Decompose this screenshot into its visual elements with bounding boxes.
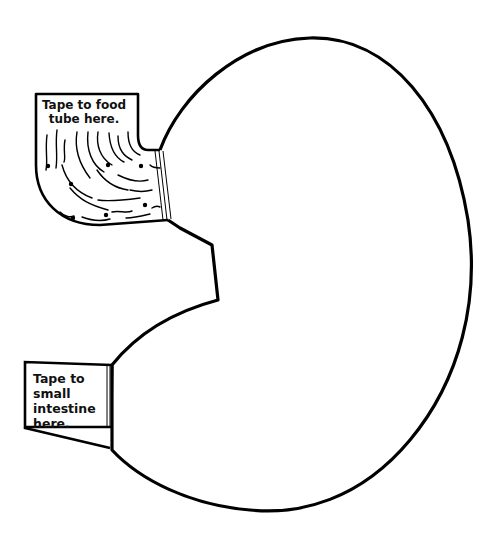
- intestine-label-line-4: here.: [33, 416, 113, 431]
- intestine-label-line-2: small: [33, 386, 113, 401]
- stomach-outline: [112, 38, 471, 511]
- intestine-tab-label: Tape to small intestine here.: [33, 371, 113, 431]
- food-tube-tab-label: Tape to food tube here.: [34, 98, 134, 126]
- intestine-label-line-3: intestine: [33, 401, 113, 416]
- stomach-rugae-lines: [46, 130, 160, 220]
- stomach-diagram: [0, 0, 502, 546]
- intestine-label-line-1: Tape to: [33, 371, 113, 386]
- food-tab-fold-lines: [155, 151, 171, 220]
